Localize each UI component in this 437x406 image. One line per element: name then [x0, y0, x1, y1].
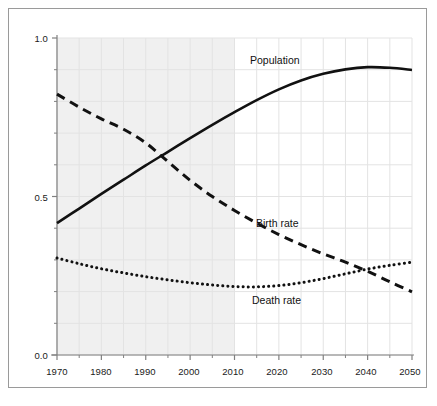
x-axis-tick-label-2000: 2000 [167, 366, 211, 377]
x-axis-tick-label-2050: 2050 [388, 366, 432, 377]
series-label-death-rate: Death rate [252, 294, 301, 306]
y-axis-tick-label-0-5: 0.5 [24, 192, 48, 203]
x-axis-tick-label-1970: 1970 [35, 366, 79, 377]
x-axis-tick-label-1990: 1990 [123, 366, 167, 377]
chart-plot-area [0, 0, 437, 406]
x-axis-tick-label-1980: 1980 [79, 366, 123, 377]
x-axis-tick-label-2030: 2030 [300, 366, 344, 377]
series-label-birth-rate: Birth rate [256, 217, 299, 229]
y-axis-tick-label-0-0: 0.0 [24, 350, 48, 361]
x-axis-tick-label-2020: 2020 [255, 366, 299, 377]
chart-figure: 1.0 0.5 0.0 1970 1980 1990 2000 2010 202… [0, 0, 437, 406]
x-axis-tick-label-2040: 2040 [344, 366, 388, 377]
series-label-population: Population [250, 54, 300, 66]
y-axis-tick-label-1-0: 1.0 [24, 33, 48, 44]
x-axis-tick-label-2010: 2010 [211, 366, 255, 377]
